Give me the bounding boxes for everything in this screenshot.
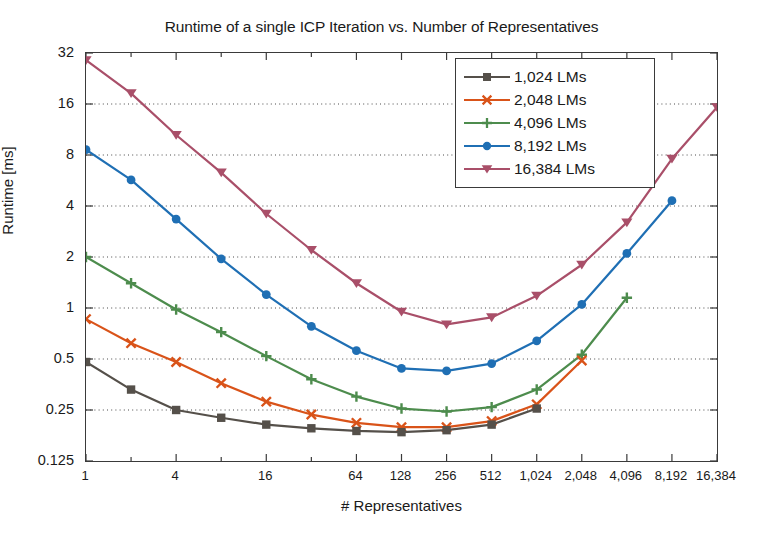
legend-swatch [464, 69, 510, 85]
x-tick-label: 16,384 [696, 468, 736, 483]
x-tick-label: 1 [81, 468, 88, 483]
data-point-marker [352, 427, 360, 435]
legend-item[interactable]: 2,048 LMs [464, 88, 646, 111]
legend-marker-circle-icon [478, 137, 496, 155]
x-tick-label: 16 [258, 468, 272, 483]
x-tick-label: 1,024 [519, 468, 552, 483]
legend-marker-square-icon [478, 68, 496, 86]
data-point-marker [217, 254, 226, 263]
y-tick-label: 0.125 [0, 452, 74, 468]
data-point-marker [441, 406, 451, 416]
data-point-marker [668, 196, 677, 205]
data-point-marker [622, 249, 631, 258]
series-line [86, 319, 582, 427]
data-point-marker [483, 141, 491, 149]
x-tick-label: 4,096 [610, 468, 643, 483]
data-point-marker [127, 385, 135, 393]
data-point-marker [352, 346, 361, 355]
data-point-marker [486, 402, 496, 412]
data-point-marker [307, 424, 315, 432]
series-line [86, 362, 537, 432]
data-point-marker [442, 426, 450, 434]
legend-item[interactable]: 16,384 LMs [464, 157, 646, 180]
x-tick-label: 128 [390, 468, 412, 483]
data-point-marker [532, 336, 541, 345]
data-point-marker [171, 304, 181, 314]
data-point-marker [483, 73, 491, 81]
legend-swatch [464, 161, 510, 177]
data-point-marker [483, 95, 492, 104]
data-point-marker [306, 374, 316, 384]
data-point-marker [533, 404, 541, 412]
figure-container: Runtime of a single ICP Iteration vs. Nu… [0, 0, 763, 535]
legend-swatch [464, 92, 510, 108]
legend-label: 2,048 LMs [514, 91, 586, 109]
data-point-marker [531, 292, 542, 301]
data-point-marker [262, 420, 270, 428]
data-point-marker [262, 290, 271, 299]
x-axis-label: # Representatives [85, 497, 718, 514]
data-point-marker [216, 327, 226, 337]
data-point-marker [487, 359, 496, 368]
data-point-marker [577, 300, 586, 309]
data-point-marker [396, 403, 406, 413]
x-tick-label: 4 [172, 468, 179, 483]
data-point-marker [482, 165, 493, 173]
legend-item[interactable]: 1,024 LMs [464, 65, 646, 88]
data-point-marker [487, 420, 495, 428]
data-point-marker [482, 118, 492, 128]
data-point-marker [126, 278, 136, 288]
data-point-marker [86, 358, 90, 366]
legend: 1,024 LMs2,048 LMs4,096 LMs8,192 LMs16,3… [455, 58, 655, 188]
data-point-marker [172, 357, 181, 366]
data-point-marker [127, 176, 136, 185]
legend-swatch [464, 115, 510, 131]
data-point-marker [442, 367, 451, 376]
legend-item[interactable]: 4,096 LMs [464, 111, 646, 134]
y-axis-label: Runtime [ms] [0, 21, 16, 361]
x-tick-label: 256 [435, 468, 457, 483]
series-2-048-lms [86, 314, 586, 431]
x-tick-label: 2,048 [565, 468, 598, 483]
legend-label: 1,024 LMs [514, 68, 586, 86]
legend-swatch [464, 138, 510, 154]
data-point-marker [351, 391, 361, 401]
data-point-marker [397, 364, 406, 373]
legend-label: 16,384 LMs [514, 160, 595, 178]
legend-marker-triangle-down-icon [478, 160, 496, 178]
x-tick-label: 512 [480, 468, 502, 483]
data-point-marker [217, 414, 225, 422]
legend-label: 4,096 LMs [514, 114, 586, 132]
data-point-marker [397, 428, 405, 436]
data-point-marker [172, 406, 180, 414]
x-tick-label: 8,192 [655, 468, 688, 483]
data-point-marker [217, 379, 226, 388]
legend-marker-x-icon [478, 91, 496, 109]
page-title: Runtime of a single ICP Iteration vs. Nu… [0, 18, 763, 36]
data-point-marker [261, 351, 271, 361]
legend-marker-plus-icon [478, 114, 496, 132]
legend-label: 8,192 LMs [514, 137, 586, 155]
data-point-marker [666, 155, 677, 164]
y-tick-label: 0.25 [0, 401, 74, 417]
x-tick-label: 64 [348, 468, 362, 483]
data-point-marker [172, 215, 181, 224]
data-point-marker [307, 322, 316, 331]
legend-item[interactable]: 8,192 LMs [464, 134, 646, 157]
data-point-marker [126, 339, 135, 348]
